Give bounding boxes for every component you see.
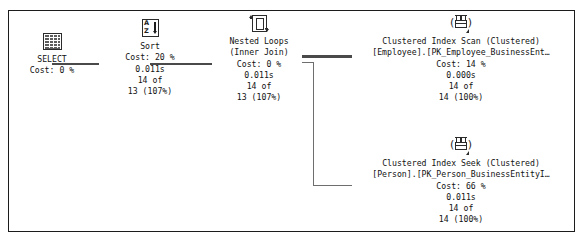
connector-indexseek-vertical: [313, 62, 314, 186]
index-seek-node-rows-actual: 14 of: [349, 203, 573, 214]
connector-indexscan-to-nestedloops: [302, 55, 352, 58]
plan-node-nested-loops[interactable]: Nested Loops (Inner Join) Cost: 0 % 0.01…: [214, 15, 304, 103]
index-scan-node-object: [Employee].[PK_Employee_BusinessEnt…: [349, 47, 573, 58]
nested-loops-node-rows-estimated: 13 (107%): [214, 92, 304, 103]
nested-loops-node-cost: Cost: 0 %: [214, 59, 304, 70]
sort-node-cost: Cost: 20 %: [107, 52, 193, 63]
index-seek-node-label: Clustered Index Seek (Clustered): [349, 158, 573, 169]
index-seek-node-rows-estimated: 14 (100%): [349, 214, 573, 225]
plan-node-sort[interactable]: AZ Sort Cost: 20 % 0.011s 14 of 13 (107%…: [107, 19, 193, 97]
sort-node-rows-actual: 14 of: [107, 75, 193, 86]
plan-node-clustered-index-scan[interactable]: ( ) Clustered Index Scan (Clustered) [Em…: [349, 15, 573, 103]
index-scan-node-rows-estimated: 14 (100%): [349, 92, 573, 103]
index-scan-node-rows-actual: 14 of: [349, 81, 573, 92]
index-scan-node-label: Clustered Index Scan (Clustered): [349, 36, 573, 47]
select-node-label: SELECT: [9, 54, 95, 65]
sort-node-label: Sort: [107, 41, 193, 52]
nested-loops-node-label: Nested Loops: [214, 36, 304, 47]
index-scan-node-cost: Cost: 14 %: [349, 59, 573, 70]
select-node-cost: Cost: 0 %: [9, 65, 95, 76]
sort-az-icon: AZ: [142, 19, 159, 37]
sort-icon-letters: AZ: [144, 20, 149, 35]
execution-plan-canvas: SELECT Cost: 0 % AZ Sort Cost: 20 % 0.01…: [8, 10, 575, 232]
plan-node-clustered-index-seek[interactable]: ( ) Clustered Index Seek (Clustered) [Pe…: [349, 137, 573, 225]
connector-indexseek-to-nestedloops: [313, 185, 352, 186]
index-seek-node-object: [Person].[PK_Person_BusinessEntityI…: [349, 169, 573, 180]
result-grid-icon: [43, 33, 62, 50]
plan-node-select[interactable]: SELECT Cost: 0 %: [9, 33, 95, 77]
index-seek-node-cost: Cost: 66 %: [349, 181, 573, 192]
nested-loops-node-time: 0.011s: [214, 70, 304, 81]
index-scan-node-time: 0.000s: [349, 70, 573, 81]
clustered-index-seek-icon: ( ): [453, 137, 469, 154]
sort-node-time: 0.011s: [107, 64, 193, 75]
index-seek-node-time: 0.011s: [349, 192, 573, 203]
sort-node-rows-estimated: 13 (107%): [107, 86, 193, 97]
nested-loops-node-rows-actual: 14 of: [214, 81, 304, 92]
nested-loops-icon: [252, 15, 267, 32]
nested-loops-node-join-type: (Inner Join): [214, 47, 304, 58]
clustered-index-scan-icon: ( ): [453, 15, 469, 32]
